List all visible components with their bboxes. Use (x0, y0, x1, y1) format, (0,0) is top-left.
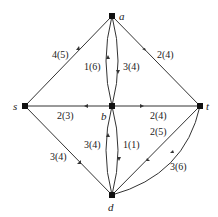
node-label-t: t (206, 100, 210, 112)
edge-label-t-d: 2(5) (150, 126, 167, 138)
node-b (109, 103, 115, 109)
edge-d-b (106, 106, 112, 195)
edge-b-d (112, 106, 118, 195)
node-a (109, 13, 115, 19)
flow-network-diagram: s a b t d 4(5) 2(4) 1(6) 3(4) 2(3) 2(4) … (0, 0, 218, 217)
edge-label-b-t: 2(4) (150, 110, 167, 122)
edge-label-b-a: 1(6) (84, 61, 101, 73)
edge-label-b-s: 2(3) (57, 110, 74, 122)
node-s (22, 103, 28, 109)
arrow-a-t-icon (142, 48, 146, 51)
node-label-d: d (108, 201, 114, 213)
edge-label-a-t: 2(4) (157, 49, 174, 61)
arrow-b-s-icon (84, 104, 88, 108)
arrow-d-t-icon (170, 150, 174, 153)
edge-label-a-b: 3(4) (123, 61, 140, 73)
arrow-s-a-icon (76, 46, 80, 50)
node-label-b: b (101, 110, 107, 122)
node-t (197, 103, 203, 109)
arrow-b-a-icon (106, 55, 110, 59)
arrow-a-b-icon (116, 70, 120, 74)
edge-label-s-a: 4(5) (52, 49, 69, 61)
node-label-a: a (119, 10, 125, 22)
edge-label-b-d: 1(1) (123, 139, 140, 151)
edge-label-s-d: 3(4) (50, 151, 67, 163)
edge-a-b (112, 16, 118, 106)
edge-label-d-t: 3(6) (170, 161, 187, 173)
edge-b-a (106, 16, 112, 106)
edge-label-d-b: 3(4) (84, 139, 101, 151)
arrow-b-t-icon (140, 104, 144, 108)
node-label-s: s (13, 100, 17, 112)
node-d (109, 192, 115, 198)
